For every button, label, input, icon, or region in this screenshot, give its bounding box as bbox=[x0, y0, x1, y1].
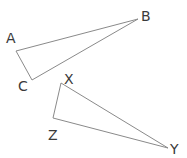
vertex-label-z: Z bbox=[48, 127, 58, 143]
triangle-abc bbox=[16, 19, 138, 80]
vertex-label-y: Y bbox=[169, 141, 179, 157]
triangle-xyz bbox=[53, 83, 168, 148]
triangle-diagram: A B C X Y Z bbox=[0, 0, 187, 158]
vertex-label-x: X bbox=[64, 71, 74, 87]
vertex-label-b: B bbox=[141, 8, 151, 24]
vertex-label-c: C bbox=[18, 78, 28, 94]
diagram-svg: A B C X Y Z bbox=[0, 0, 187, 158]
vertex-label-a: A bbox=[6, 30, 16, 46]
